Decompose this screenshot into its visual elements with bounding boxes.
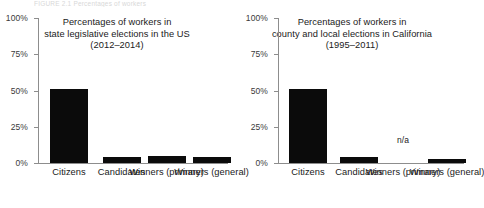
bar-slot-winners-general-right: Winners (general): [425, 18, 469, 163]
y-tick-100-left: 100%: [34, 18, 38, 19]
na-annotation-winners-primary-right: n/a: [397, 135, 409, 145]
chart-panel-state-legislative: Percentages of workers in state legislat…: [0, 0, 234, 208]
x-label-winners-general-left-line-1: Winners: [174, 167, 208, 177]
bar-slot-candidates-left: Candidates: [99, 18, 144, 163]
bar-winners-primary-left[interactable]: [148, 156, 186, 163]
bar-slot-winners-primary-left: Winners (primary): [144, 18, 189, 163]
x-label-citizens-right-line-1: Citizens: [291, 167, 324, 177]
y-tick-50-right: 50%: [274, 91, 278, 92]
bar-slot-winners-primary-right: n/a Winners (primary): [381, 18, 425, 163]
y-tick-label-25-left: 25%: [11, 122, 28, 132]
x-label-winners-general-right-line-2: (general): [447, 167, 484, 177]
plot-area-right: 100% 75% 50% 25% 0% Citizens: [278, 18, 464, 163]
bar-winners-general-left[interactable]: [193, 157, 231, 163]
y-tick-25-left: 25%: [34, 127, 38, 128]
x-label-winners-general-right: Winners (general): [410, 167, 484, 179]
chart-panel-county-local-california: Percentages of workers in county and loc…: [234, 0, 468, 208]
plot-area-left: 100% 75% 50% 25% 0% Citizens: [38, 18, 228, 163]
y-tick-25-right: 25%: [274, 127, 278, 128]
bar-slot-winners-general-left: Winners (general): [189, 18, 234, 163]
bar-citizens-left[interactable]: [50, 89, 88, 163]
y-tick-75-left: 75%: [34, 54, 38, 55]
y-tick-label-50-left: 50%: [11, 86, 28, 96]
bar-slot-citizens-right: Citizens: [279, 18, 337, 163]
x-label-citizens-left: Citizens: [52, 167, 85, 179]
bar-candidates-left[interactable]: [103, 157, 141, 163]
bar-group-left: Citizens Candidates Winners (primary): [39, 18, 228, 163]
y-tick-label-100-right: 100%: [246, 13, 268, 23]
bar-slot-candidates-right: Candidates: [337, 18, 381, 163]
x-label-winners-general-right-line-1: Winners: [410, 167, 444, 177]
x-label-citizens-left-line-1: Citizens: [52, 167, 85, 177]
y-tick-0-right: 0%: [274, 163, 278, 164]
y-tick-label-0-left: 0%: [16, 158, 29, 168]
y-tick-label-50-right: 50%: [251, 86, 268, 96]
y-tick-50-left: 50%: [34, 91, 38, 92]
bar-winners-general-right[interactable]: [428, 159, 466, 163]
y-tick-label-0-right: 0%: [256, 158, 269, 168]
y-tick-label-75-left: 75%: [11, 49, 28, 59]
y-tick-label-100-left: 100%: [6, 13, 28, 23]
x-label-winners-primary-left-line-1: Winners: [129, 167, 163, 177]
x-label-winners-primary-right-line-1: Winners: [366, 167, 400, 177]
y-tick-label-75-right: 75%: [251, 49, 268, 59]
y-tick-label-25-right: 25%: [251, 122, 268, 132]
y-tick-100-right: 100%: [274, 18, 278, 19]
x-axis-line-left: [38, 163, 228, 164]
y-tick-75-right: 75%: [274, 54, 278, 55]
y-tick-0-left: 0%: [34, 163, 38, 164]
x-axis-line-right: [278, 163, 464, 164]
bar-candidates-right[interactable]: [340, 157, 378, 163]
bar-group-right: Citizens Candidates n/a Winners (primary…: [279, 18, 464, 163]
bar-citizens-right[interactable]: [289, 89, 327, 163]
bar-slot-citizens-left: Citizens: [39, 18, 99, 163]
x-label-citizens-right: Citizens: [291, 167, 324, 179]
